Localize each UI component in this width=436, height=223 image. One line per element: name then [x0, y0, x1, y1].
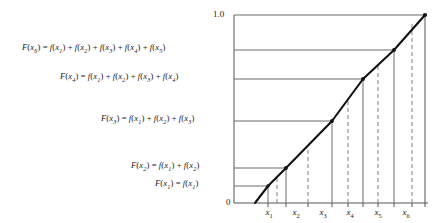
equation-F1: F(x1) = f(x1)	[155, 178, 198, 190]
solid-droplines	[268, 50, 394, 203]
y-axis-min-label: 0	[226, 197, 231, 207]
cdf-figure	[0, 0, 436, 223]
x-tick-label-5: x5	[371, 207, 385, 219]
dashed-droplines	[277, 22, 412, 203]
cdf-curve	[255, 15, 425, 203]
x-tick-label-1: x1	[262, 207, 276, 219]
equation-F6: F(x6) = f(x1) + f(x2) + f(x3) + f(x4) + …	[22, 42, 165, 54]
equation-F3: F(x3) = f(x1) + f(x2) + f(x3)	[101, 113, 194, 125]
x-tick-label-3: x3	[316, 207, 330, 219]
leader-line-stubs	[230, 45, 234, 55]
x-tick-label-4: x4	[343, 207, 357, 219]
equation-F4: F(x4) = f(x1) + f(x2) + f(x3) + f(x4)	[60, 71, 178, 83]
x-tick-label-2: x2	[289, 207, 303, 219]
equation-F2: F(x2) = f(x1) + f(x2)	[131, 160, 199, 172]
y-axis-max-label: 1.0	[213, 9, 224, 19]
x-tick-label-6: x6	[399, 207, 413, 219]
leader-lines	[234, 15, 425, 186]
